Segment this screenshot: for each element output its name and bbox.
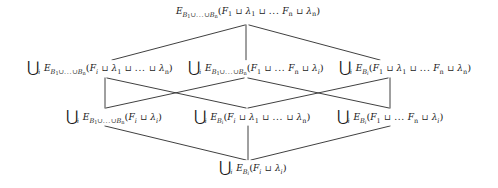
node-mid-center: ⋃i EB1∪...∪Bn(F1 ⊔ ... Fn ⊔ λi) — [187, 60, 325, 76]
hasse-diagram: EB1∪...∪Bn(F1 ⊔ λ1 ⊔ ... Fn ⊔ λn) ⋃i EB1… — [0, 0, 498, 188]
edge-low-left-to-bottom — [105, 126, 246, 160]
node-low-center: ⋃i EBi(Fi ⊔ λ1 ⊔ ... ⊔ λn) — [193, 109, 312, 125]
edge-top-to-mid-left — [112, 25, 245, 60]
node-bottom: ⋃i EBi(Fi ⊔ λi) — [218, 160, 287, 176]
node-low-left: ⋃i EB1∪...∪Bn(Fi ⊔ λi) — [65, 109, 163, 125]
node-top: EB1∪...∪Bn(F1 ⊔ λ1 ⊔ ... Fn ⊔ λn) — [175, 6, 321, 19]
edge-low-right-to-bottom — [251, 126, 390, 160]
node-low-right: ⋃i EBi(F1 ⊔ ... Fn ⊔ λi) — [336, 109, 445, 125]
node-mid-right: ⋃i EBi(F1 ⊔ λ1 ⊔ ... Fn ⊔ λn) — [338, 60, 472, 76]
node-mid-left: ⋃i EB1∪...∪Bn(Fi ⊔ λ1 ⊔ ... ⊔ λn) — [26, 60, 174, 76]
edge-top-to-mid-right — [249, 25, 380, 60]
